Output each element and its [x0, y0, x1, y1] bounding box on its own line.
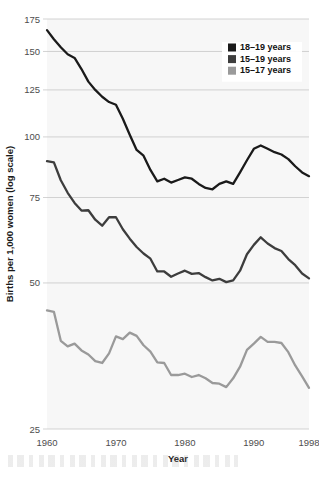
y-axis-tick-label: 150	[24, 46, 40, 57]
legend-swatch	[228, 55, 236, 63]
y-axis-tick-label: 25	[29, 424, 40, 435]
y-axis-tick-label: 125	[24, 84, 40, 95]
x-axis-tick-label: 1960	[36, 437, 57, 448]
legend-label: 15–19 years	[240, 54, 291, 64]
x-axis-tick-label: 1990	[243, 437, 264, 448]
legend-swatch	[228, 44, 236, 52]
y-axis-tick-label: 50	[29, 277, 40, 288]
x-axis-tick-label: 1980	[174, 437, 195, 448]
y-axis-tick-label: 175	[24, 14, 40, 25]
chart-figure: 255075100125150175 19601970198019901998 …	[0, 0, 319, 486]
legend-label: 15–17 years	[240, 65, 291, 75]
y-axis-tick-label: 75	[29, 192, 40, 203]
legend-swatch	[228, 67, 236, 75]
x-axis-tick-label: 1998	[298, 437, 319, 448]
y-axis-tick-label: 100	[24, 131, 40, 142]
caption-text-blur	[8, 455, 238, 467]
chart-legend: 18–19 years15–19 years15–17 years	[222, 42, 302, 82]
x-axis-tick-label: 1970	[105, 437, 126, 448]
legend-label: 18–19 years	[240, 42, 291, 52]
y-axis-tick-labels: 255075100125150175	[24, 14, 40, 435]
y-axis-title: Births per 1,000 women (log scale)	[4, 146, 15, 302]
x-axis-tick-labels: 19601970198019901998	[36, 437, 319, 448]
line-chart: 255075100125150175 19601970198019901998 …	[0, 0, 319, 486]
